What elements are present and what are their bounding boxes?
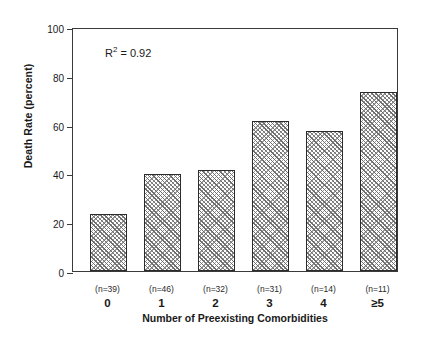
x-tick-label: ≥5	[365, 296, 389, 311]
y-tick-label: 100	[34, 24, 64, 35]
y-axis-title: Death Rate (percent)	[22, 36, 34, 196]
x-tick-group-1: (n=46) 1	[149, 283, 174, 311]
x-tick-group-3: (n=31) 3	[257, 283, 282, 311]
sample-size-label: (n=39)	[95, 283, 120, 295]
sample-size-label: (n=32)	[203, 283, 228, 295]
bar-2	[198, 170, 235, 271]
r-squared-exponent: 2	[113, 45, 117, 54]
x-tick-label: 4	[311, 296, 336, 311]
x-tick-label: 0	[95, 296, 120, 311]
y-tick-mark	[67, 175, 73, 176]
y-tick-mark	[67, 273, 73, 274]
bar-1	[144, 174, 181, 271]
chart-figure: Death Rate (percent) 0 20 40 60 80 100 R…	[0, 0, 425, 340]
y-tick-label: 40	[34, 170, 64, 181]
sample-size-label: (n=11)	[365, 283, 389, 295]
y-tick-mark	[67, 29, 73, 30]
y-tick-label: 80	[34, 72, 64, 83]
y-tick-mark	[67, 127, 73, 128]
x-tick-label: 3	[257, 296, 282, 311]
y-tick-mark	[67, 224, 73, 225]
sample-size-label: (n=46)	[149, 283, 174, 295]
x-tick-group-4: (n=14) 4	[311, 283, 336, 311]
bar-5	[360, 92, 397, 271]
x-tick-group-5: (n=11) ≥5	[365, 283, 389, 311]
x-tick-label: 1	[149, 296, 174, 311]
y-tick-label: 60	[34, 121, 64, 132]
y-tick-mark	[67, 78, 73, 79]
sample-size-label: (n=31)	[257, 283, 282, 295]
r-squared-symbol: R	[105, 47, 113, 59]
y-tick-label: 0	[34, 268, 64, 279]
x-tick-group-2: (n=32) 2	[203, 283, 228, 311]
r-squared-value: = 0.92	[120, 47, 151, 59]
y-tick-label: 20	[34, 219, 64, 230]
plot-area: 0 20 40 60 80 100 R2 = 0.92	[72, 28, 398, 272]
x-axis-title: Number of Preexisting Comorbidities	[72, 312, 398, 324]
bar-0	[90, 214, 127, 271]
sample-size-label: (n=14)	[311, 283, 336, 295]
x-tick-label: 2	[203, 296, 228, 311]
bar-3	[252, 121, 289, 271]
r-squared-annotation: R2 = 0.92	[105, 45, 151, 59]
bar-4	[306, 131, 343, 271]
x-tick-group-0: (n=39) 0	[95, 283, 120, 311]
